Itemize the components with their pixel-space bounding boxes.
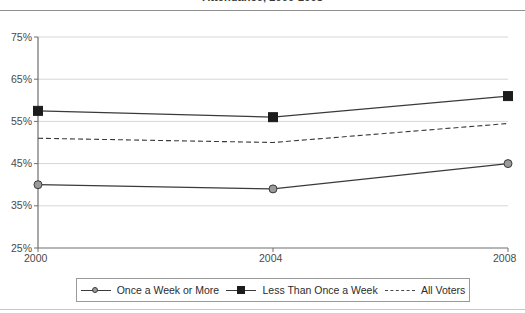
chart-screenshot: Attendance, 2000-2008 75% 65% 55% 45% 35…	[0, 0, 525, 313]
circle-marker-icon	[81, 285, 111, 295]
legend-label-once-a-week-or-more: Once a Week or More	[117, 284, 220, 296]
legend-label-all-voters: All Voters	[421, 284, 465, 296]
axis-ticks	[34, 37, 508, 252]
dashed-line-icon	[385, 285, 415, 295]
legend-item-less-than-once-a-week: Less Than Once a Week	[226, 284, 377, 296]
chart-canvas	[0, 0, 525, 313]
legend-item-all-voters: All Voters	[385, 284, 465, 296]
square-marker-icon	[226, 285, 256, 295]
legend-item-once-a-week-or-more: Once a Week or More	[81, 284, 220, 296]
bottom-divider	[0, 309, 525, 310]
series-lines	[38, 96, 508, 189]
plot-area	[38, 37, 508, 248]
legend-label-less-than-once-a-week: Less Than Once a Week	[262, 284, 377, 296]
chart-legend: Once a Week or More Less Than Once a Wee…	[76, 278, 470, 302]
